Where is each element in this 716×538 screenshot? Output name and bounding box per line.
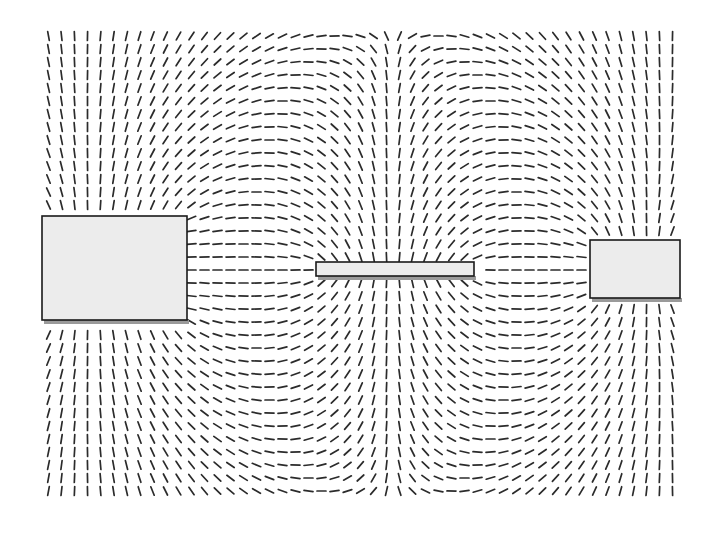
field-dash (188, 150, 195, 156)
field-dash (538, 283, 547, 284)
field-dash (422, 462, 429, 468)
field-dash (386, 474, 387, 483)
field-dash (278, 127, 287, 128)
field-dash (399, 162, 400, 171)
field-dash (539, 125, 547, 129)
field-dash (412, 292, 414, 301)
field-dash (593, 32, 597, 40)
field-dash (423, 110, 428, 117)
field-dash (151, 487, 154, 495)
field-dash (113, 331, 114, 340)
field-dash (632, 422, 634, 431)
field-dash (461, 202, 468, 207)
field-dash (213, 321, 222, 323)
field-dash (345, 331, 350, 339)
field-dash (126, 32, 128, 41)
field-dash (331, 163, 337, 170)
field-canvas (0, 0, 716, 538)
field-dash (411, 84, 415, 92)
field-dash (399, 136, 400, 145)
field-dash (100, 448, 101, 457)
field-dash (473, 281, 481, 285)
field-dash (473, 34, 481, 37)
field-dash (265, 244, 274, 245)
field-dash (525, 412, 534, 415)
field-dash (370, 34, 377, 39)
field-dash (318, 228, 325, 234)
field-dash (538, 347, 547, 350)
field-dash (659, 344, 660, 353)
field-dash (113, 370, 115, 379)
field-dash (214, 59, 221, 65)
field-dash (291, 113, 300, 115)
field-dash (619, 71, 622, 80)
field-dash (539, 86, 546, 91)
field-dash (473, 399, 482, 402)
field-dash (200, 320, 208, 323)
field-dash (672, 357, 674, 366)
field-dash (48, 32, 50, 41)
field-dash (151, 201, 155, 209)
field-dash (659, 357, 660, 366)
field-dash (499, 321, 508, 323)
field-dash (579, 32, 583, 40)
field-dash (579, 461, 584, 468)
field-dash (163, 409, 168, 417)
field-dash (151, 344, 155, 352)
field-dash (412, 253, 414, 262)
field-dash (278, 165, 287, 167)
field-dash (513, 476, 521, 480)
field-dash (74, 175, 75, 184)
field-dash (358, 97, 363, 105)
field-dash (188, 202, 195, 207)
field-dash (74, 370, 75, 379)
field-dash (113, 71, 115, 80)
field-dash (473, 100, 482, 101)
field-dash (619, 123, 622, 131)
field-dash (138, 136, 141, 144)
field-dash (499, 257, 508, 258)
field-dash (592, 123, 597, 130)
field-dash (227, 46, 234, 52)
field-dash (150, 162, 154, 170)
field-dash (278, 139, 287, 140)
field-dash (214, 398, 222, 402)
field-dash (332, 332, 338, 339)
field-dash (672, 175, 674, 184)
field-dash (188, 332, 195, 337)
field-dash (538, 244, 547, 245)
field-dash (278, 191, 287, 193)
field-dash (499, 295, 508, 296)
field-dash (252, 438, 261, 440)
field-dash (551, 243, 560, 245)
field-dash (646, 149, 647, 158)
field-dash (411, 331, 413, 340)
field-dash (47, 357, 50, 365)
field-dash (187, 244, 196, 245)
field-dash (318, 189, 325, 195)
field-dash (278, 386, 287, 388)
field-dash (125, 175, 127, 184)
field-dash (592, 228, 598, 235)
field-dash (151, 422, 155, 430)
field-dash (201, 85, 208, 91)
field-dash (606, 487, 609, 495)
field-dash (499, 114, 508, 115)
field-dash (47, 123, 49, 132)
field-dash (592, 409, 597, 416)
field-dash (239, 178, 248, 179)
field-dash (253, 47, 261, 51)
field-dash (252, 399, 261, 400)
field-dash (538, 217, 547, 219)
field-dash (632, 84, 634, 93)
field-dash (486, 178, 495, 180)
field-dash (525, 335, 534, 336)
field-dash (551, 283, 560, 284)
field-dash (526, 488, 533, 494)
field-dash (318, 125, 326, 130)
field-dash (125, 110, 127, 119)
field-dash (150, 123, 154, 131)
field-line-diagram (0, 0, 716, 538)
field-dash (189, 58, 194, 65)
field-dash (151, 71, 155, 79)
